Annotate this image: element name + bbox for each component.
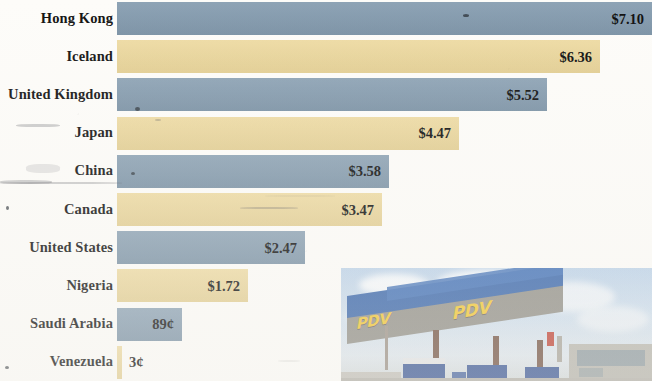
bar-value-label: $2.47 (264, 239, 297, 256)
bar-value-label: $6.36 (559, 48, 592, 65)
bar-hong-kong: $7.10 (117, 2, 652, 35)
category-label-united-states: United States (0, 240, 113, 255)
bar-venezuela: 3¢ (117, 346, 122, 379)
chart-row: China$3.58 (0, 155, 652, 188)
bar-nigeria: $1.72 (117, 269, 248, 302)
chart-row: United States$2.47 (0, 231, 652, 264)
bar-canada: $3.47 (117, 193, 382, 226)
bar-shading (117, 40, 600, 73)
bar-japan: $4.47 (117, 117, 459, 150)
bar-shading (117, 78, 547, 111)
category-label-venezuela: Venezuela (0, 355, 113, 370)
category-label-canada: Canada (0, 202, 113, 217)
bar-saudi-arabia: 89¢ (117, 308, 182, 341)
category-label-iceland: Iceland (0, 49, 113, 64)
bar-shading (117, 2, 652, 35)
bar-united-states: $2.47 (117, 231, 305, 264)
bar-value-label: $3.58 (348, 163, 381, 180)
photo-haze-overlay (341, 268, 652, 381)
category-label-china: China (0, 164, 113, 179)
bar-value-label: $4.47 (418, 125, 451, 142)
chart-row: Japan$4.47 (0, 117, 652, 150)
bar-shading (117, 346, 122, 379)
chart-row: United Kingdom$5.52 (0, 78, 652, 111)
category-label-hong-kong: Hong Kong (0, 11, 113, 26)
category-label-nigeria: Nigeria (0, 278, 113, 293)
bar-value-label: $7.10 (611, 10, 644, 27)
bar-china: $3.58 (117, 155, 389, 188)
bar-value-label: $1.72 (207, 277, 240, 294)
chart-row: Canada$3.47 (0, 193, 652, 226)
bar-iceland: $6.36 (117, 40, 600, 73)
bar-united-kingdom: $5.52 (117, 78, 547, 111)
category-label-united-kingdom: United Kingdom (0, 87, 113, 102)
bar-value-label: 3¢ (129, 354, 144, 371)
category-label-japan: Japan (0, 125, 113, 140)
bar-value-label: 89¢ (152, 316, 174, 333)
category-label-saudi-arabia: Saudi Arabia (0, 316, 113, 331)
bar-chart: Hong Kong$7.10Iceland$6.36United Kingdom… (0, 0, 652, 381)
bar-value-label: $3.47 (341, 201, 374, 218)
bar-shading (117, 117, 459, 150)
bar-value-label: $5.52 (506, 86, 539, 103)
gas-station-photo: PDV PDV (341, 268, 652, 381)
chart-row: Hong Kong$7.10 (0, 2, 652, 35)
chart-row: Iceland$6.36 (0, 40, 652, 73)
